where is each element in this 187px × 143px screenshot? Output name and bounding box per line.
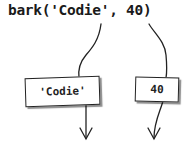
argument-box-name: 'Codie' bbox=[25, 76, 101, 107]
connector-line-arg2-out bbox=[154, 101, 163, 138]
argument-box-weight: 40 bbox=[135, 76, 180, 102]
connector-line-arg1 bbox=[79, 24, 101, 78]
flow-arrows bbox=[0, 0, 187, 143]
connector-line-arg2 bbox=[149, 24, 167, 78]
